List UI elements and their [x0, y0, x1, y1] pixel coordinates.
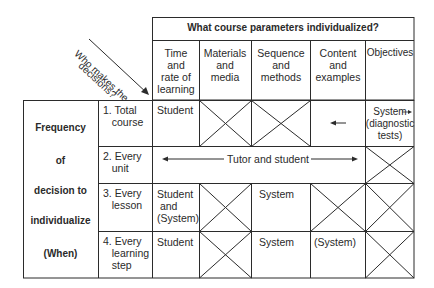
row-group-label-decision: decision to	[23, 185, 98, 197]
decision-matrix-diagram: Who makes the decisions? What course par…	[0, 0, 434, 288]
column-header-materials: Materials and media	[199, 47, 251, 83]
cell-r1-objectives: System (diagnostic tests)	[365, 106, 415, 142]
column-header-objectives: Objectives	[365, 47, 415, 59]
row-group-label-of: of	[23, 155, 98, 167]
row-label-every-lesson: 3. Every lesson	[103, 187, 142, 211]
cell-r4-sequence: System	[259, 236, 294, 248]
row-label-total-course: 1. Total course	[103, 104, 143, 128]
table-grid	[0, 0, 434, 288]
column-header-time: Time and rate of learning	[152, 47, 200, 95]
cell-r4-content: (System)	[314, 236, 356, 248]
column-header-sequence: Sequence and methods	[251, 47, 311, 83]
column-header-content: Content and examples	[310, 47, 366, 83]
cell-r1-time: Student	[157, 104, 193, 116]
cell-r3-time: Student and (System)	[157, 188, 199, 224]
cell-r4-time: Student	[157, 236, 193, 248]
cell-r2-span-tutor-and-student: Tutor and student	[226, 153, 310, 165]
row-group-label-individualize: individualize	[23, 215, 98, 227]
row-label-every-unit: 2. Every unit	[103, 150, 142, 174]
row-group-label-when: (When)	[23, 248, 98, 260]
column-group-header: What course parameters individualized?	[152, 22, 414, 34]
row-group-label-frequency: Frequency	[23, 122, 98, 134]
cell-r3-sequence: System	[259, 188, 294, 200]
row-label-every-learning-step: 4. Every learning step	[103, 235, 149, 271]
